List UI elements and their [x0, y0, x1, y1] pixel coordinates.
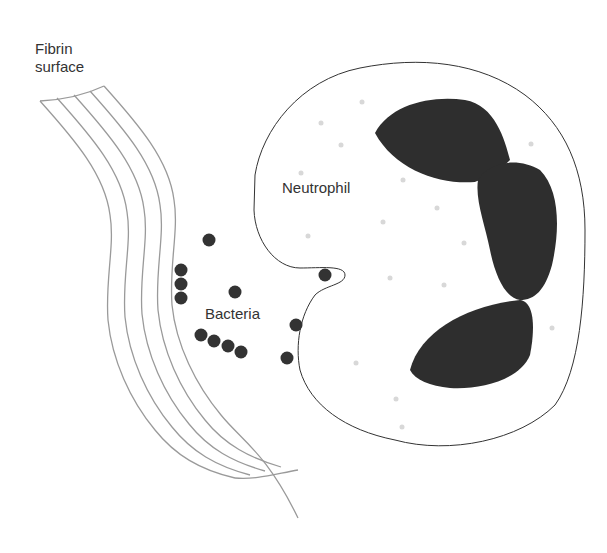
- fibrin-label-line1: Fibrin: [35, 40, 115, 58]
- fibrin-surface-label: Fibrin surface: [35, 40, 115, 76]
- neutrophil-fibrin-diagram: [0, 0, 607, 553]
- neutrophil-label: Neutrophil: [282, 179, 350, 197]
- fibrin-surface: [40, 86, 298, 518]
- bacteria-label: Bacteria: [205, 305, 260, 323]
- fibrin-label-line2: surface: [35, 58, 115, 76]
